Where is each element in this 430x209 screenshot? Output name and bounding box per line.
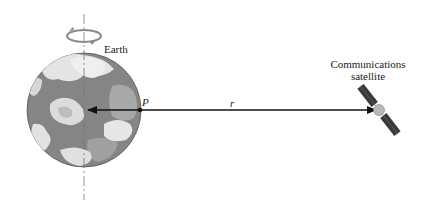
point-p-label: P <box>142 96 149 108</box>
distance-r-label: r <box>230 97 234 109</box>
earth-label: Earth <box>104 43 128 55</box>
satellite-label: Communications satellite <box>318 58 418 82</box>
diagram-canvas <box>0 0 430 209</box>
satellite-label-line2: satellite <box>318 70 418 82</box>
point-p-dot <box>138 108 143 113</box>
satellite-label-line1: Communications <box>318 58 418 70</box>
